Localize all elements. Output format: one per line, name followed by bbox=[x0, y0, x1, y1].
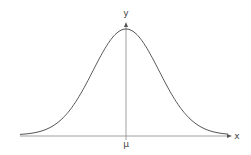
y-axis-label: y bbox=[123, 8, 129, 18]
x-axis-label: x bbox=[234, 131, 240, 141]
normal-curve-diagram: y x μ bbox=[0, 0, 251, 155]
y-axis-arrow-icon bbox=[124, 22, 128, 27]
x-axis-arrow-icon bbox=[227, 134, 232, 138]
bell-curve bbox=[20, 29, 228, 134]
mean-label: μ bbox=[123, 139, 129, 149]
